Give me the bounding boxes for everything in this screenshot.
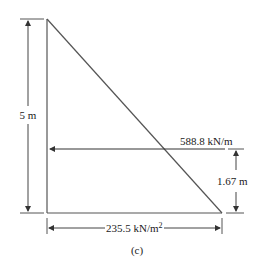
height-dimension: 5 m	[20, 19, 44, 213]
force-label: 588.8 kN/m	[180, 135, 233, 147]
figure-caption: (c)	[131, 244, 144, 257]
location-dimension: 1.67 m	[217, 149, 248, 213]
base-pressure-label: 235.5 kN/m2	[106, 221, 163, 234]
pressure-diagram: 5 m 588.8 kN/m 1.67 m 235.5 kN/m2 (c)	[0, 0, 274, 263]
height-label: 5 m	[20, 109, 37, 121]
pressure-triangle	[47, 19, 222, 213]
hypotenuse-line	[47, 19, 222, 213]
location-label: 1.67 m	[217, 175, 248, 187]
base-pressure-dimension: 235.5 kN/m2	[47, 218, 222, 234]
resultant-force: 588.8 kN/m	[50, 135, 233, 149]
